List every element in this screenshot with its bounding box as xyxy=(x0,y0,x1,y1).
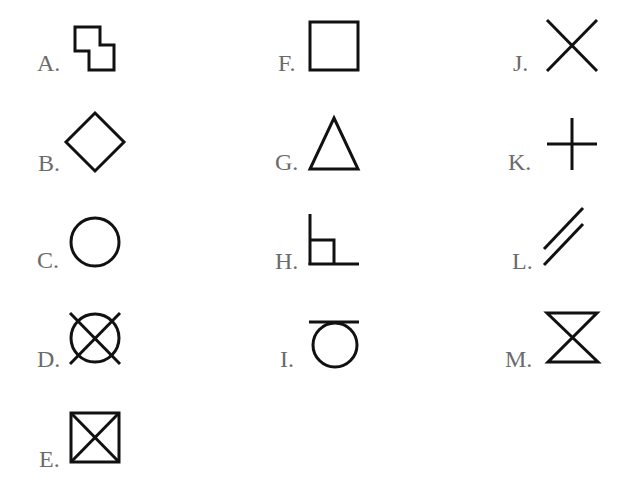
circle-under-line-icon xyxy=(309,322,359,367)
diamond-icon xyxy=(66,113,124,171)
shapes-layer xyxy=(0,0,635,491)
plus-cross-icon xyxy=(547,118,597,170)
circle-icon xyxy=(71,218,119,266)
square-icon xyxy=(310,22,358,70)
crossed-square-icon xyxy=(71,413,119,462)
parallel-lines-icon xyxy=(544,208,583,265)
symbol-figure: A. B. C. D. E. F. G. H. I. J. K. L. M. xyxy=(0,0,635,491)
triangle-icon xyxy=(310,118,358,169)
crossed-circle-icon xyxy=(70,313,120,364)
x-cross-icon xyxy=(547,20,597,71)
two-offset-squares-icon xyxy=(75,27,114,70)
right-angle-with-square-icon xyxy=(309,214,360,265)
hourglass-icon xyxy=(547,313,598,362)
